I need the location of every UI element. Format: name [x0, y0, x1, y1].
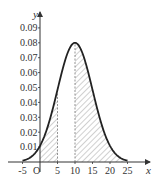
- normal-distribution-chart: 0.010.020.030.040.050.060.070.080.09 -55…: [0, 0, 157, 187]
- x-tick-label: 20: [105, 165, 115, 176]
- x-tick-label: 10: [70, 165, 80, 176]
- origin-label: O: [33, 165, 40, 176]
- x-tick-label: 15: [88, 165, 98, 176]
- y-tick-label: 0.02: [20, 127, 38, 138]
- shaded-regions: [40, 43, 128, 162]
- y-tick-label: 0.01: [20, 141, 38, 152]
- x-axis-label: x: [145, 164, 151, 176]
- y-tick-label: 0.06: [20, 67, 38, 78]
- y-ticks: 0.010.020.030.040.050.060.070.080.09: [20, 22, 40, 152]
- y-tick-label: 0.03: [20, 112, 38, 123]
- y-tick-label: 0.05: [20, 82, 38, 93]
- y-tick-label: 0.07: [20, 52, 38, 63]
- y-tick-label: 0.04: [20, 97, 38, 108]
- x-tick-label: 25: [123, 165, 133, 176]
- dashed-lines: [58, 43, 76, 162]
- y-tick-label: 0.08: [20, 37, 38, 48]
- hatched-region: [75, 43, 128, 162]
- x-tick-label: 5: [55, 165, 60, 176]
- y-axis-label: y: [32, 8, 38, 20]
- x-tick-label: -5: [18, 165, 26, 176]
- y-tick-label: 0.09: [20, 22, 38, 33]
